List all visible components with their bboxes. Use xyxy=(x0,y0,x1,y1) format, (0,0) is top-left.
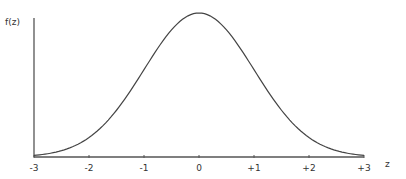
x-tick-label: 0 xyxy=(196,163,202,173)
x-tick-label: +3 xyxy=(357,163,370,173)
density-curve xyxy=(34,13,364,155)
x-tick-label: -1 xyxy=(140,163,149,173)
normal-distribution-chart: -3-2-10+1+2+3 f(z) z xyxy=(0,0,406,179)
x-tick-label: +2 xyxy=(302,163,315,173)
x-tick-label: -2 xyxy=(85,163,94,173)
x-tick-label: -3 xyxy=(30,163,39,173)
x-axis-label: z xyxy=(385,159,390,169)
x-tick-label: +1 xyxy=(247,163,260,173)
x-axis-ticks: -3-2-10+1+2+3 xyxy=(30,155,371,173)
y-axis-label: f(z) xyxy=(5,17,20,27)
